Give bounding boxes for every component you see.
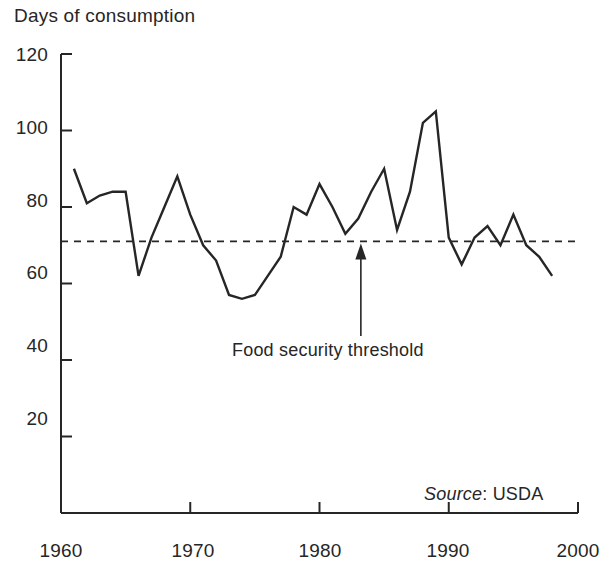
threshold-arrow-icon — [355, 243, 366, 336]
data-series-group — [74, 111, 552, 298]
axes-group — [61, 54, 578, 513]
arrow-head — [355, 243, 366, 259]
chart-figure: Days of consumption 120 100 80 60 40 20 … — [0, 0, 610, 585]
plot-area — [0, 0, 610, 585]
data-line — [74, 111, 552, 298]
